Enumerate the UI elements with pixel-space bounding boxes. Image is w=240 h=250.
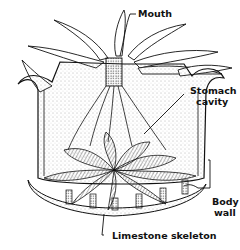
body-wall-label-line1: Body xyxy=(212,197,239,207)
limestone-skeleton-label: Limestone skeleton xyxy=(112,231,217,241)
coral-polyp-diagram: Mouth Stomach cavity Body wall Limestone… xyxy=(0,0,240,250)
pharynx xyxy=(106,58,122,86)
body-wall-label-line2: wall xyxy=(214,208,236,218)
stomach-cavity-label-line1: Stomach xyxy=(190,86,237,96)
mouth-label: Mouth xyxy=(138,9,172,19)
polyp-illustration xyxy=(0,0,240,250)
stomach-cavity-label-line2: cavity xyxy=(196,97,228,107)
skeleton-leader xyxy=(102,214,104,235)
